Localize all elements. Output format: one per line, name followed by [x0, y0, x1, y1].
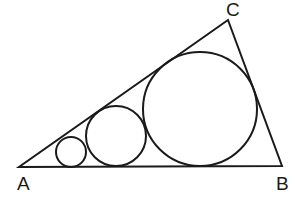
- vertex-label-b: B: [276, 174, 289, 193]
- triangle-diagram: [0, 0, 295, 200]
- circle-small: [56, 137, 86, 167]
- circle-large: [143, 52, 257, 166]
- vertex-label-c: C: [226, 0, 240, 19]
- vertex-label-a: A: [17, 174, 30, 193]
- circle-medium: [86, 106, 146, 166]
